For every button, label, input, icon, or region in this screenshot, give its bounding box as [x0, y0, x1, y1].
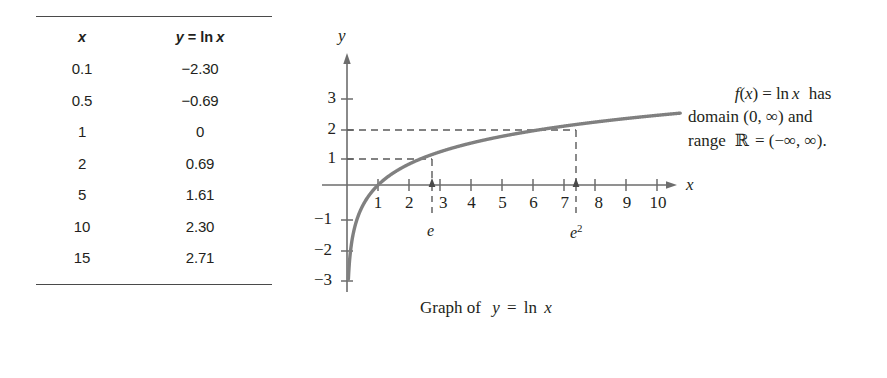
y-tick-label: −1	[302, 209, 332, 229]
marker-arrow-e-squared	[573, 178, 580, 187]
table-cell-x: 2	[36, 155, 128, 172]
x-tick-label: 5	[490, 193, 516, 213]
y-tick-label: −2	[302, 240, 332, 260]
x-tick-label: 7	[552, 193, 578, 213]
annotation-paren-close: )	[753, 84, 759, 103]
x-tick-label: 6	[521, 193, 547, 213]
table-cell-y: 2.30	[128, 218, 272, 235]
annotation-real-symbol: ℝ	[735, 130, 749, 150]
x-tick-label: 2	[396, 193, 422, 213]
graph-caption-pre: Graph of	[420, 298, 481, 317]
graph-caption-y: y	[492, 298, 500, 317]
y-axis-label: y	[338, 26, 346, 46]
x-tick-label: 1	[365, 193, 391, 213]
label-e-squared-exponent: 2	[577, 222, 582, 234]
x-tick-label: 10	[645, 193, 671, 213]
x-tick-label: 9	[614, 193, 640, 213]
table-header-y-eq: =	[188, 29, 196, 45]
table-cell-y: 0	[128, 123, 272, 140]
annotation-var-x: x	[745, 84, 753, 103]
table-cell-y: −0.69	[128, 92, 272, 109]
table-cell-x: 1	[36, 123, 128, 140]
x-tick-label: 8	[586, 193, 612, 213]
table-body: 0.1−2.300.5−0.691020.6951.61102.30152.71	[36, 53, 272, 274]
annotation-range-word: range	[688, 131, 726, 150]
ln-graph-figure: y x 12345678910 321−1−2−3 e e2 Graph of …	[300, 0, 700, 378]
table-cell-y: 1.61	[128, 186, 272, 203]
y-tick-label: −3	[302, 270, 332, 290]
ln-graph-svg	[300, 0, 700, 300]
x-tick-label: 3	[430, 193, 456, 213]
graph-caption-arg: x	[544, 298, 552, 317]
table-header-x-label: x	[78, 29, 86, 45]
graph-caption-fn: ln	[524, 298, 537, 317]
y-tick-label: 2	[306, 119, 336, 139]
annotation-text-block: f(x)=lnxhas domain (0, ∞) and rangeℝ= (−…	[688, 83, 878, 153]
y-axis-arrowhead	[343, 53, 350, 64]
table-cell-x: 10	[36, 218, 128, 235]
table-cell-y: 0.69	[128, 155, 272, 172]
table-row: 0.1−2.30	[36, 53, 272, 85]
annotation-eq: =	[762, 84, 772, 103]
marker-arrow-e	[429, 178, 436, 187]
table-header-y: y=lnx	[128, 29, 272, 45]
x-axis-label: x	[686, 175, 694, 195]
label-e-squared: e2	[570, 222, 583, 242]
y-tick-label: 1	[306, 148, 336, 168]
table-row: 152.71	[36, 242, 272, 274]
table-header-row: x y=lnx	[36, 17, 272, 53]
table-cell-x: 0.5	[36, 92, 128, 109]
table-cell-y: −2.30	[128, 60, 272, 77]
table-header-y-fn: ln	[200, 29, 213, 45]
table-header-y-arg: x	[216, 29, 224, 45]
y-tick-label: 3	[306, 88, 336, 108]
table-cell-x: 5	[36, 186, 128, 203]
table-row: 102.30	[36, 211, 272, 243]
x-tick-label: 4	[458, 193, 484, 213]
ln-value-table: x y=lnx 0.1−2.300.5−0.691020.6951.61102.…	[36, 16, 272, 285]
table-header-y-var: y	[176, 29, 184, 45]
table-row: 0.5−0.69	[36, 85, 272, 117]
table-cell-x: 15	[36, 249, 128, 266]
guide-dashes	[347, 130, 576, 185]
annotation-ln-arg: x	[792, 84, 800, 103]
x-axis-arrowhead	[666, 181, 677, 188]
graph-caption: Graph of y = ln x	[420, 298, 552, 318]
annotation-ln: ln	[776, 84, 789, 103]
annotation-has: has	[809, 84, 832, 103]
table-row: 20.69	[36, 148, 272, 180]
table-cell-x: 0.1	[36, 60, 128, 77]
annotation-line-2: domain (0, ∞) and	[688, 106, 878, 129]
table-cell-y: 2.71	[128, 249, 272, 266]
table-row: 51.61	[36, 179, 272, 211]
label-e: e	[427, 222, 434, 240]
annotation-line-3: rangeℝ= (−∞, ∞).	[688, 129, 878, 153]
table-row: 10	[36, 116, 272, 148]
annotation-range-interval: = (−∞, ∞).	[755, 131, 827, 150]
table-header-x: x	[36, 29, 128, 45]
annotation-line-1: f(x)=lnxhas	[688, 83, 878, 106]
graph-caption-eq: =	[507, 298, 517, 317]
axes	[322, 62, 668, 292]
table-bottom-rule	[36, 284, 272, 285]
